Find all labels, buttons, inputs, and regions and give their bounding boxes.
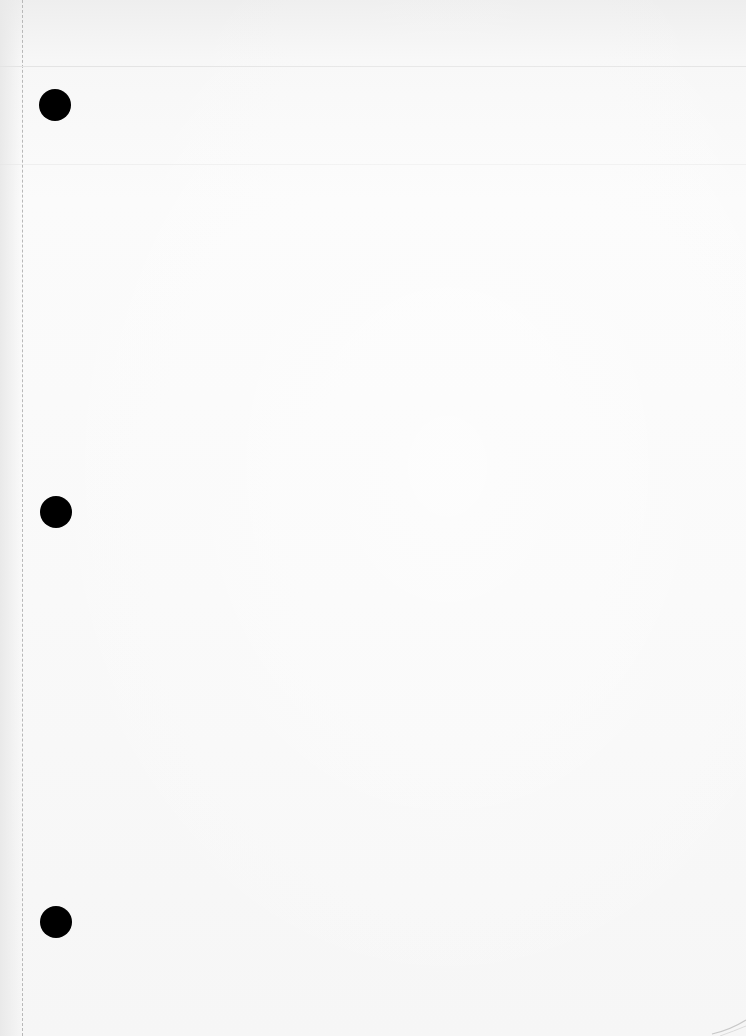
- page-corner-curl: [706, 1018, 746, 1036]
- punch-hole-middle: [40, 496, 72, 528]
- perforation-line: [22, 0, 23, 1036]
- punch-hole-top: [39, 89, 71, 121]
- blank-paper-page: [0, 0, 746, 1036]
- punch-hole-bottom: [40, 906, 72, 938]
- faint-top-rule: [0, 66, 746, 67]
- faint-rule: [0, 164, 746, 165]
- left-edge-shadow: [0, 0, 22, 1036]
